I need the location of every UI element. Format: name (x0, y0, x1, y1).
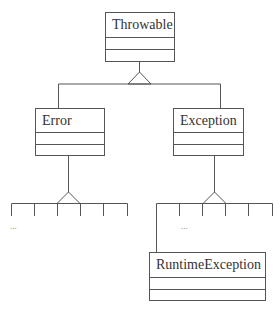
class-name: Throwable (106, 13, 174, 38)
class-attributes (106, 38, 174, 50)
error-generalization-connector (12, 155, 128, 216)
throwable-generalization-connector (59, 61, 221, 108)
class-name: Error (36, 109, 104, 133)
class-operations (106, 50, 174, 61)
class-name: RuntimeException (150, 253, 265, 278)
class-exception: Exception (173, 108, 244, 156)
more-subclasses-ellipsis-left: ... (10, 222, 17, 231)
more-subclasses-ellipsis-right: ... (181, 222, 188, 231)
class-operations (150, 290, 265, 300)
generalization-triangle-icon (57, 192, 80, 204)
generalization-triangle-icon (203, 192, 226, 204)
class-name: Exception (174, 109, 243, 133)
class-attributes (36, 133, 104, 145)
class-error: Error (35, 108, 105, 156)
class-attributes (150, 278, 265, 290)
class-operations (36, 145, 104, 155)
exception-generalization-connector (157, 155, 273, 252)
class-attributes (174, 133, 243, 145)
uml-class-diagram: Throwable Error Exception RuntimeExcepti… (0, 0, 280, 310)
generalization-triangle-icon (128, 72, 151, 84)
class-runtime-exception: RuntimeException (149, 252, 266, 301)
class-operations (174, 145, 243, 155)
class-throwable: Throwable (105, 12, 175, 62)
